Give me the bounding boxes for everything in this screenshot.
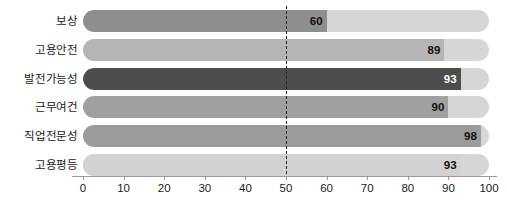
bar-row: 고용안전89 — [0, 39, 507, 61]
x-axis-tick-label: 20 — [144, 182, 184, 194]
x-axis-tick-mark — [83, 176, 84, 180]
bar-row: 고용평등93 — [0, 154, 507, 176]
x-axis-tick-label: 70 — [347, 182, 387, 194]
reference-line-50 — [286, 6, 287, 174]
bar-value-label: 93 — [431, 154, 457, 176]
bar-fill — [83, 68, 461, 90]
x-axis: 0102030405060708090100 — [0, 176, 507, 203]
x-axis-tick-mark — [327, 176, 328, 180]
bar-fill — [83, 125, 481, 147]
bar-category-label: 발전가능성 — [0, 68, 78, 90]
x-axis-tick-label: 30 — [185, 182, 225, 194]
bar-fill — [83, 39, 444, 61]
horizontal-bar-chart: 보상60고용안전89발전가능성93근무여건90직업전문성98고용평등93 010… — [0, 0, 507, 203]
x-axis-tick-mark — [164, 176, 165, 180]
bar-category-label: 보상 — [0, 10, 78, 32]
bar-fill — [83, 96, 448, 118]
x-axis-tick-mark — [408, 176, 409, 180]
x-axis-tick-mark — [124, 176, 125, 180]
bar-value-label: 89 — [414, 39, 440, 61]
x-axis-tick-mark — [367, 176, 368, 180]
x-axis-tick-mark — [489, 176, 490, 180]
bar-fill — [83, 154, 461, 176]
bar-row: 근무여건90 — [0, 96, 507, 118]
bar-rows-container: 보상60고용안전89발전가능성93근무여건90직업전문성98고용평등93 — [0, 0, 507, 176]
bar-category-label: 근무여건 — [0, 96, 78, 118]
bar-value-label: 60 — [297, 10, 323, 32]
bar-value-label: 90 — [418, 96, 444, 118]
bar-category-label: 고용안전 — [0, 39, 78, 61]
x-axis-tick-label: 90 — [428, 182, 468, 194]
bar-value-label: 98 — [451, 125, 477, 147]
bar-row: 보상60 — [0, 10, 507, 32]
x-axis-tick-mark — [245, 176, 246, 180]
x-axis-tick-label: 100 — [469, 182, 507, 194]
x-axis-tick-label: 10 — [104, 182, 144, 194]
bar-fill — [83, 10, 327, 32]
x-axis-tick-label: 60 — [307, 182, 347, 194]
bar-category-label: 고용평등 — [0, 154, 78, 176]
x-axis-tick-mark — [286, 176, 287, 180]
x-axis-tick-label: 0 — [63, 182, 103, 194]
x-axis-tick-mark — [205, 176, 206, 180]
x-axis-line — [72, 176, 497, 177]
x-axis-tick-label: 50 — [266, 182, 306, 194]
x-axis-tick-label: 80 — [388, 182, 428, 194]
bar-row: 발전가능성93 — [0, 68, 507, 90]
bar-category-label: 직업전문성 — [0, 125, 78, 147]
x-axis-tick-label: 40 — [225, 182, 265, 194]
bar-value-label: 93 — [431, 68, 457, 90]
x-axis-tick-mark — [448, 176, 449, 180]
bar-row: 직업전문성98 — [0, 125, 507, 147]
